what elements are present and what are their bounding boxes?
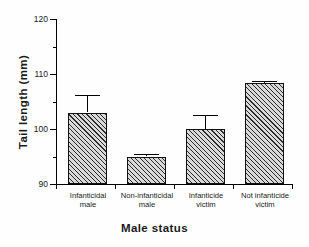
y-tick-120 xyxy=(50,19,56,20)
bar-not-infanticide-victim[interactable] xyxy=(245,83,284,184)
bar-non-infanticidal-male[interactable] xyxy=(127,157,166,185)
bar-infanticide-victim[interactable] xyxy=(186,129,225,184)
y-tick-label-120: 120 xyxy=(34,15,48,23)
y-tick-110 xyxy=(50,74,56,75)
bar-infanticidal-male[interactable] xyxy=(68,113,107,185)
error-bar-stem-2 xyxy=(205,115,206,129)
error-bar-stem-0 xyxy=(87,95,88,113)
bar-chart-figure: Tail length (mm) 120 110 100 90 xyxy=(0,0,309,247)
y-tick-label-110: 110 xyxy=(34,70,48,78)
y-tick-label-100: 100 xyxy=(34,125,48,133)
y-tick-100 xyxy=(50,129,56,130)
plot-area: 120 110 100 90 Infanticidal male Non-inf… xyxy=(56,19,293,184)
x-tick-4 xyxy=(292,184,293,189)
error-bar-cap-0 xyxy=(75,95,100,96)
x-tick-1 xyxy=(115,184,116,189)
x-axis-title: Male status xyxy=(0,222,309,234)
y-minor-tick-95 xyxy=(53,157,56,158)
y-minor-tick-115 xyxy=(53,47,56,48)
y-axis-title: Tail length (mm) xyxy=(17,17,29,187)
error-bar-cap-3 xyxy=(252,81,277,82)
x-tick-2 xyxy=(174,184,175,189)
y-minor-tick-105 xyxy=(53,102,56,103)
error-bar-cap-1 xyxy=(134,154,159,155)
x-category-label-3: Not infanticide victim xyxy=(228,191,302,209)
x-tick-3 xyxy=(233,184,234,189)
x-tick-0 xyxy=(56,184,57,189)
y-tick-label-90: 90 xyxy=(39,180,48,188)
error-bar-cap-2 xyxy=(193,115,218,116)
y-axis-line xyxy=(56,19,57,184)
